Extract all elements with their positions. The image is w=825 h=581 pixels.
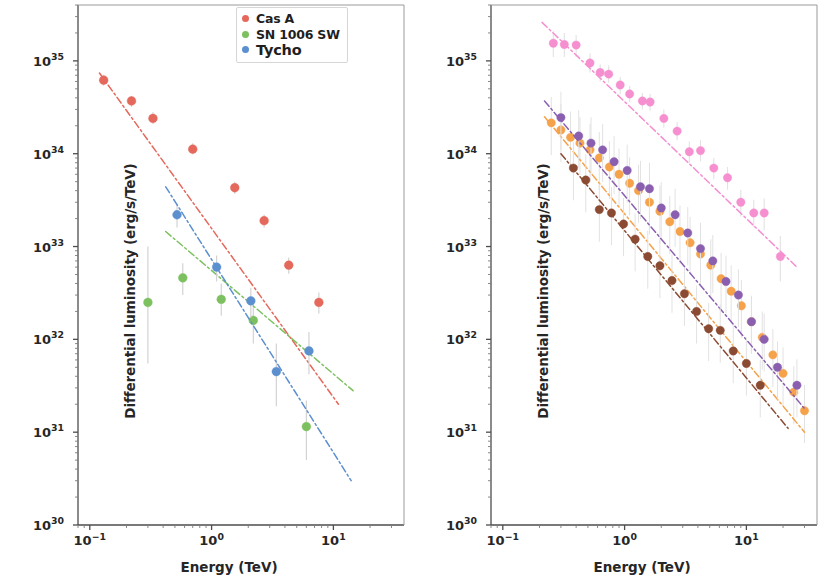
data-point	[302, 422, 311, 431]
data-point	[760, 209, 768, 217]
legend-entry[interactable]: Tycho	[242, 42, 340, 58]
data-point	[173, 210, 182, 219]
plot-area-left	[0, 0, 412, 581]
data-point	[144, 298, 153, 307]
legend-left: Cas ASN 1006 SWTycho	[236, 7, 348, 63]
data-point	[776, 252, 784, 260]
chart-panel-left: Differential luminosity (erg/s/TeV) 1030…	[0, 0, 412, 581]
data-point	[685, 148, 693, 156]
data-point	[149, 114, 158, 123]
data-point	[610, 158, 618, 166]
data-point	[249, 316, 258, 325]
data-point	[773, 363, 781, 371]
fit-line	[545, 101, 805, 409]
data-point	[686, 238, 694, 246]
fit-line	[166, 187, 351, 481]
data-point	[575, 132, 583, 140]
data-point	[737, 198, 745, 206]
data-point	[619, 220, 627, 228]
legend-marker-icon	[242, 31, 249, 38]
x-tick-label: 101	[321, 533, 346, 548]
data-point	[644, 252, 652, 260]
data-point	[217, 295, 226, 304]
x-tick-label: 100	[612, 533, 637, 548]
data-point	[750, 209, 758, 217]
data-point	[625, 90, 633, 98]
data-point	[668, 276, 676, 284]
data-point	[696, 244, 704, 252]
figure-root: Differential luminosity (erg/s/TeV) 1030…	[0, 0, 825, 581]
data-point	[716, 326, 724, 334]
data-point	[657, 204, 665, 212]
data-point	[723, 174, 731, 182]
data-point	[769, 351, 777, 359]
data-point	[756, 381, 764, 389]
data-point	[673, 127, 681, 135]
data-point	[230, 183, 239, 192]
legend-label: Cas A	[256, 11, 294, 26]
data-point	[729, 347, 737, 355]
data-point	[604, 70, 612, 78]
data-point	[760, 335, 768, 343]
data-point	[615, 170, 623, 178]
chart-panel-right: Differential luminosity (erg/s/TeV) 1030…	[413, 0, 825, 581]
fit-line	[166, 232, 353, 391]
x-axis-label-left: Energy (TeV)	[0, 559, 412, 575]
data-point	[572, 41, 580, 49]
fit-line	[545, 117, 805, 432]
data-point	[680, 290, 688, 298]
x-tick-label: 10−1	[74, 533, 106, 548]
data-point	[569, 164, 577, 172]
data-point	[212, 263, 221, 272]
data-point	[595, 205, 603, 213]
data-point	[566, 133, 574, 141]
data-point	[692, 307, 700, 315]
data-point	[645, 184, 653, 192]
x-axis-label-right: Energy (TeV)	[413, 559, 825, 575]
data-point	[127, 97, 136, 106]
data-point	[734, 291, 742, 299]
data-point	[178, 273, 187, 282]
data-point	[660, 114, 668, 122]
data-point	[671, 211, 679, 219]
data-point	[616, 81, 624, 89]
data-point	[586, 59, 594, 67]
data-point	[314, 298, 323, 307]
legend-entry[interactable]: Cas A	[242, 11, 340, 27]
data-point	[598, 146, 606, 154]
data-point	[684, 229, 692, 237]
data-point	[99, 76, 108, 85]
data-point	[638, 97, 646, 105]
legend-label: Tycho	[256, 42, 302, 58]
fit-line	[99, 73, 338, 404]
fit-line	[561, 154, 788, 429]
data-point	[607, 209, 615, 217]
data-point	[747, 317, 755, 325]
data-point	[305, 347, 314, 356]
x-tick-label: 100	[199, 533, 224, 548]
data-point	[709, 257, 717, 265]
legend-entry[interactable]: SN 1006 SW	[242, 27, 340, 43]
data-point	[742, 359, 750, 367]
data-point	[722, 277, 730, 285]
data-point	[636, 183, 644, 191]
data-point	[560, 40, 568, 48]
data-point	[272, 367, 281, 376]
data-point	[646, 98, 654, 106]
data-point	[246, 296, 255, 305]
data-point	[260, 216, 269, 225]
legend-marker-icon	[242, 46, 249, 53]
data-point	[696, 146, 704, 154]
data-point	[549, 39, 557, 47]
legend-marker-icon	[242, 15, 249, 22]
data-point	[676, 227, 684, 235]
x-tick-label: 101	[734, 533, 759, 548]
data-point	[582, 176, 590, 184]
data-point	[710, 164, 718, 172]
data-point	[631, 235, 639, 243]
data-point	[284, 261, 293, 270]
data-point	[666, 218, 674, 226]
data-point	[188, 145, 197, 154]
data-point	[704, 325, 712, 333]
x-tick-label: 10−1	[487, 533, 519, 548]
